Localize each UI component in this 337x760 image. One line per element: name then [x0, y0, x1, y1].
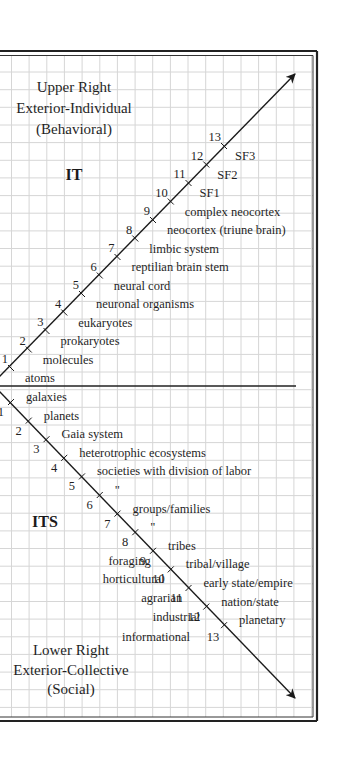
upper-title-line-3: (Behavioral) [36, 121, 112, 138]
upper-tick-label: atoms [25, 371, 55, 385]
upper-title-line-1: Upper Right [37, 79, 112, 95]
upper-tick-number: 5 [73, 278, 79, 292]
lower-tick-label: galaxies [26, 390, 67, 404]
upper-tick-number: 7 [108, 241, 114, 255]
upper-tick-number: 12 [191, 149, 204, 163]
lower-left-label: foraging [108, 554, 151, 568]
upper-quadrant-code: IT [66, 166, 83, 183]
upper-tick-label: SF2 [217, 168, 237, 182]
upper-tick-label: complex neocortex [185, 205, 281, 219]
lower-tick-label: nation/state [221, 595, 279, 609]
upper-tick-number: 13 [209, 130, 222, 144]
lower-tick-label: tribes [168, 539, 196, 553]
upper-tick-number: 11 [173, 167, 185, 181]
upper-tick-number: 1 [2, 352, 8, 366]
upper-tick-number: 9 [144, 204, 150, 218]
upper-tick-label: neocortex (triune brain) [167, 223, 286, 237]
upper-tick-number: 10 [155, 186, 168, 200]
upper-tick-number: 3 [37, 315, 43, 329]
upper-tick-number: 4 [55, 297, 62, 311]
upper-tick-number: 6 [91, 260, 97, 274]
lower-tick-number: 7 [104, 517, 110, 531]
lower-tick-label: heterotrophic ecosystems [79, 446, 206, 460]
lower-tick-label: early state/empire [204, 576, 294, 590]
lower-left-label: horticultural [103, 572, 165, 586]
lower-tick-number: 1 [0, 405, 4, 419]
lower-tick-number: 3 [33, 442, 39, 456]
upper-tick-label: neural cord [114, 279, 171, 293]
lower-title-line-1: Lower Right [33, 642, 110, 658]
lower-tick-label: Gaia system [62, 427, 124, 441]
upper-tick-label: reptilian brain stem [132, 260, 229, 274]
lower-tick-label: planets [44, 409, 80, 423]
lower-left-label: industrial [153, 610, 201, 624]
lower-tick-number: 6 [87, 498, 93, 512]
lower-tick-label: " [150, 520, 155, 534]
upper-tick-label: SF1 [200, 186, 220, 200]
upper-tick-label: eukaryotes [78, 316, 132, 330]
lower-tick-label: planetary [239, 613, 286, 627]
lower-title-line-3: (Social) [47, 681, 94, 698]
upper-title-line-2: Exterior-Individual [16, 100, 132, 116]
upper-tick-number: 8 [126, 223, 132, 237]
lower-left-number-13: 13 [207, 630, 220, 644]
upper-tick-label: SF3 [235, 149, 255, 163]
upper-tick-label: prokaryotes [61, 334, 120, 348]
quadrant-diagram: Upper Right Exterior-Individual (Behavio… [0, 0, 337, 760]
lower-left-label-informational: informational [122, 630, 191, 644]
upper-tick-label: molecules [43, 353, 94, 367]
lower-left-label: agrarian [141, 591, 183, 605]
lower-title-line-2: Exterior-Collective [13, 662, 129, 678]
upper-tick-label: neuronal organisms [96, 297, 194, 311]
upper-tick-label: limbic system [149, 242, 219, 256]
upper-tick-number: 2 [20, 334, 26, 348]
lower-tick-label: " [115, 483, 120, 497]
lower-tick-label: societies with division of labor [97, 464, 252, 478]
lower-tick-label: groups/families [133, 502, 211, 516]
lower-tick-number: 5 [69, 479, 75, 493]
lower-tick-label: tribal/village [186, 557, 250, 571]
lower-tick-number: 2 [16, 424, 22, 438]
lower-quadrant-code: ITS [32, 513, 58, 530]
lower-tick-number: 8 [122, 535, 128, 549]
lower-tick-number: 4 [51, 461, 58, 475]
